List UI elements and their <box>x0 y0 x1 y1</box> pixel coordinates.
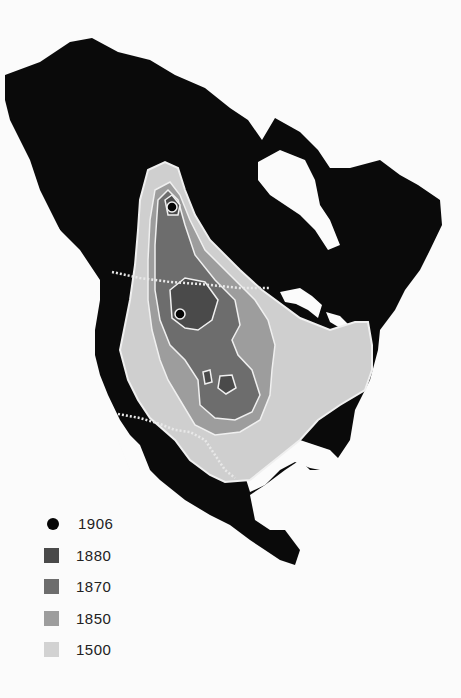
map-legend: 1906 1880 1870 1850 1500 <box>44 508 113 666</box>
range-1880 <box>203 370 212 384</box>
dot-icon <box>47 518 59 530</box>
swatch-icon <box>44 642 59 657</box>
legend-label: 1850 <box>76 610 111 627</box>
range-1906-north <box>167 202 177 212</box>
legend-label: 1500 <box>76 641 111 658</box>
swatch-icon <box>44 611 59 626</box>
legend-item-1880: 1880 <box>44 540 113 572</box>
legend-label: 1906 <box>78 515 113 532</box>
legend-label: 1870 <box>76 578 111 595</box>
legend-item-1850: 1850 <box>44 603 113 635</box>
legend-item-1870: 1870 <box>44 571 113 603</box>
swatch-icon <box>44 548 59 563</box>
range-1906-central <box>175 309 185 319</box>
legend-label: 1880 <box>76 547 111 564</box>
legend-item-1906: 1906 <box>44 508 113 540</box>
legend-item-1500: 1500 <box>44 634 113 666</box>
swatch-icon <box>44 579 59 594</box>
